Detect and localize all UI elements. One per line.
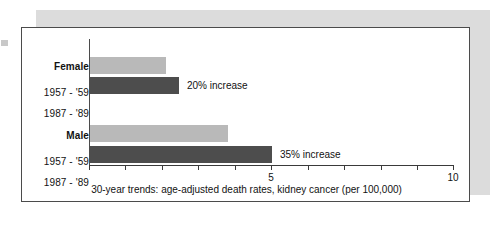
x-tick-0 (89, 165, 90, 170)
category-label-female-1987: 1987 - '89 (0, 108, 89, 119)
category-label-female-1957: 1957 - '59 (0, 87, 89, 98)
x-tick-label-5: 5 (268, 172, 274, 183)
x-tick-1 (125, 165, 126, 170)
bar-female-1957 (90, 57, 166, 74)
chart-caption: 30-year trends: age-adjusted death rates… (22, 184, 471, 195)
x-tick-8 (381, 165, 382, 170)
x-tick-6 (308, 165, 309, 170)
x-tick-4 (235, 165, 236, 170)
annotation-male-increase: 35% increase (280, 149, 341, 160)
plot-area: Female 1957 - '59 1987 - '89 Male 1957 -… (22, 28, 471, 203)
x-tick-5 (271, 165, 272, 170)
bar-female-1987 (90, 77, 179, 94)
chart-container: Female 1957 - '59 1987 - '89 Male 1957 -… (21, 27, 470, 202)
annotation-female-increase: 20% increase (187, 80, 248, 91)
x-tick-10 (453, 165, 454, 170)
group-label-male: Male (0, 130, 89, 141)
bar-male-1957 (90, 125, 228, 142)
x-tick-3 (198, 165, 199, 170)
group-label-female: Female (0, 61, 89, 72)
edge-artifact-mark (1, 40, 8, 46)
x-tick-2 (162, 165, 163, 170)
x-tick-label-10: 10 (447, 172, 458, 183)
x-tick-9 (417, 165, 418, 170)
x-tick-7 (344, 165, 345, 170)
category-label-male-1957: 1957 - '59 (0, 156, 89, 167)
bar-male-1987 (90, 146, 272, 163)
